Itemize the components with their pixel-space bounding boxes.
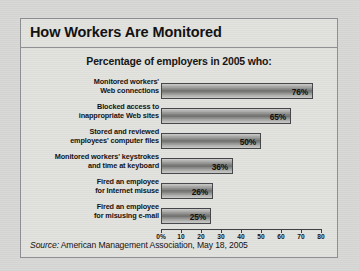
title-divider [21,47,337,48]
bar-value-label: 26% [192,187,208,197]
bar-row: Monitored workers'Web connections76% [21,83,337,99]
bar-row: Fired an employeefor misusing e-mail25% [21,208,337,224]
bar-row: Blocked access toinappropriate Web sites… [21,108,337,124]
bar-value-label: 76% [292,87,308,97]
x-axis-tick-label: 10 [177,233,184,240]
bar: 25% [161,208,211,224]
bar-category-label: Stored and reviewedemployees' computer f… [23,128,159,145]
source-label: Source: [30,240,59,250]
bar-value-label: 36% [212,162,228,172]
bar-category-label: Fired an employeefor misusing e-mail [23,203,159,220]
chart-title: How Workers Are Monitored [30,24,222,40]
x-axis-tick-label: 0% [156,233,166,240]
bar-value-label: 50% [240,137,256,147]
bar-category-label: Blocked access toinappropriate Web sites [23,103,159,120]
bar: 76% [161,83,313,99]
x-axis-tick-label: 80 [317,233,324,240]
x-axis-tick-label: 20 [197,233,204,240]
source-note: Source: American Management Association,… [30,240,248,250]
bar-row: Fired an employeefor Internet misuse26% [21,183,337,199]
bar-value-label: 25% [190,212,206,222]
chart-subtitle: Percentage of employers in 2005 who: [21,55,337,67]
bar: 65% [161,108,291,124]
x-axis-tick-label: 60 [277,233,284,240]
bar-row: Monitored workers' keystrokesand time at… [21,158,337,174]
bar: 50% [161,133,261,149]
bar-row: Stored and reviewedemployees' computer f… [21,133,337,149]
bar: 36% [161,158,233,174]
plot-area: Monitored workers'Web connections76%Bloc… [21,77,337,229]
bar: 26% [161,183,213,199]
bar-category-label: Monitored workers'Web connections [23,78,159,95]
chart-figure: How Workers Are Monitored Percentage of … [20,18,338,258]
x-axis-tick-label: 70 [297,233,304,240]
x-axis-tick-label: 50 [257,233,264,240]
source-text: American Management Association, May 18,… [59,240,248,250]
x-axis-tick-label: 30 [217,233,224,240]
bar-category-label: Monitored workers' keystrokesand time at… [23,153,159,170]
x-axis-tick-label: 40 [237,233,244,240]
bar-category-label: Fired an employeefor Internet misuse [23,178,159,195]
bar-value-label: 65% [270,112,286,122]
